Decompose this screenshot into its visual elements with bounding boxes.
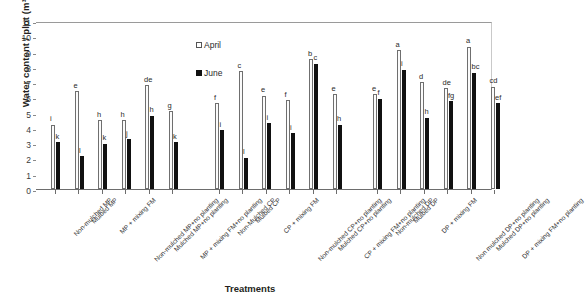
bar-june xyxy=(378,99,382,189)
bar-june xyxy=(496,103,500,189)
bar-annotation-june: k xyxy=(56,133,60,141)
bar-annotation-april: f xyxy=(214,94,216,102)
x-tick-mark xyxy=(149,190,150,194)
legend-item-april: April xyxy=(196,40,221,50)
bar-annotation-april: cd xyxy=(490,77,498,85)
bar-pair: hk xyxy=(97,23,110,189)
x-tick-label: DP + mixing FM xyxy=(440,197,478,235)
legend-label-june: June xyxy=(204,68,222,78)
bar-june xyxy=(127,139,131,189)
bar-annotation-april: e xyxy=(74,82,78,90)
x-tick-label: Non-mulched MP+no planting xyxy=(154,197,220,263)
bar-june xyxy=(291,133,295,189)
x-tick-label: DP + mixing FM+no planting xyxy=(521,197,584,260)
bar-april xyxy=(333,94,337,189)
bar-june xyxy=(80,156,84,189)
x-tick-mark xyxy=(400,190,401,194)
bar-annotation-june: i xyxy=(401,60,403,68)
x-tick-label: Mulched MP+no planting xyxy=(173,197,229,253)
bar-june xyxy=(402,70,406,189)
bar-april xyxy=(262,96,266,189)
x-tick-label: Mulbed MP xyxy=(91,197,119,225)
bar-june xyxy=(103,144,107,189)
bar-annotation-june: l xyxy=(79,147,81,155)
x-tick-mark xyxy=(377,190,378,194)
x-tick-label: Non-mulched CP+no planting xyxy=(317,197,383,263)
x-tick-mark xyxy=(447,190,448,194)
bar-pair: fi xyxy=(285,23,298,189)
bar-annotation-april: a xyxy=(396,41,400,49)
bar-pair: cl xyxy=(238,23,251,189)
bar-pair: gk xyxy=(168,23,181,189)
bar-annotation-april: h xyxy=(97,111,101,119)
bar-annotation-june: bc xyxy=(472,63,480,71)
bar-annotation-june: j xyxy=(126,130,128,138)
bar-annotation-june: k xyxy=(103,134,107,142)
bar-pair: el xyxy=(74,23,87,189)
bar-june xyxy=(472,73,476,189)
x-tick-mark xyxy=(78,190,79,194)
bar-annotation-june: c xyxy=(314,54,318,62)
bar-april xyxy=(51,125,55,189)
x-tick-label: Mulched DP+no planting xyxy=(495,197,551,253)
x-tick-label: CP + mixing FM+no planting xyxy=(363,197,426,260)
bar-pair: defg xyxy=(443,23,456,189)
bar-pair: dh xyxy=(419,23,432,189)
x-tick-mark xyxy=(55,190,56,194)
bar-annotation-june: i xyxy=(290,124,292,132)
bar-june xyxy=(338,125,342,189)
bar-april xyxy=(286,100,290,189)
bar-annotation-april: de xyxy=(443,79,451,87)
bar-pair: hj xyxy=(121,23,134,189)
bar-annotation-june: h xyxy=(337,115,341,123)
bar-june xyxy=(244,158,248,189)
bar-annotation-april: g xyxy=(168,102,172,110)
bar-annotation-june: h xyxy=(150,106,154,114)
bar-groups: ikelhkhjdehgkficleifibcehefaidhdefgabccd… xyxy=(36,23,491,189)
x-tick-mark xyxy=(266,190,267,194)
x-tick-label: Non-mulched MP xyxy=(72,197,113,238)
bar-april xyxy=(98,120,102,189)
legend-swatch-june-icon xyxy=(196,70,202,76)
bar-april xyxy=(467,47,471,189)
bar-april xyxy=(491,87,495,189)
x-tick-label: CP + mixing FM xyxy=(282,197,320,235)
x-tick-label: Mulbed CP xyxy=(255,197,283,225)
bar-annotation-april: e xyxy=(372,85,376,93)
x-axis-title: Treatments xyxy=(0,283,500,294)
bar-annotation-april: d xyxy=(419,73,423,81)
bar-pair: ai xyxy=(396,23,409,189)
bar-june xyxy=(449,101,453,189)
legend-swatch-april-icon xyxy=(196,42,202,48)
x-tick-mark xyxy=(336,190,337,194)
bar-april xyxy=(309,59,313,189)
bar-annotation-june: k xyxy=(173,133,177,141)
bar-annotation-april: a xyxy=(466,37,470,45)
bar-annotation-april: e xyxy=(332,85,336,93)
bar-pair: eh xyxy=(332,23,345,189)
bar-april xyxy=(169,111,173,189)
bar-april xyxy=(75,91,79,189)
bar-annotation-april: b xyxy=(308,50,312,58)
x-tick-mark xyxy=(471,190,472,194)
bar-april xyxy=(215,103,219,189)
legend-label-april: April xyxy=(204,40,221,50)
bar-april xyxy=(122,120,126,189)
x-tick-mark xyxy=(289,190,290,194)
bar-june xyxy=(174,142,178,189)
bar-annotation-april: h xyxy=(121,111,125,119)
bar-april xyxy=(397,50,401,189)
bar-annotation-april: c xyxy=(238,62,242,70)
bar-pair: ei xyxy=(261,23,274,189)
bar-pair: ik xyxy=(50,23,63,189)
bar-april xyxy=(239,71,243,189)
x-tick-label: Non mulched DP+no planting xyxy=(475,197,540,262)
x-tick-mark xyxy=(219,190,220,194)
bar-pair: deh xyxy=(144,23,157,189)
x-tick-label: Non-Mulched CP xyxy=(236,197,276,237)
bar-april xyxy=(420,82,424,189)
x-tick-mark xyxy=(125,190,126,194)
x-tick-mark xyxy=(313,190,314,194)
plot-area: 01234567891011 ikelhkhjdehgkficleifibceh… xyxy=(36,22,492,190)
